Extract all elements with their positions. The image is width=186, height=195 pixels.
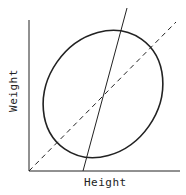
y-axis-label: Weight (7, 66, 20, 116)
data-ellipse (19, 7, 186, 181)
dashed-line (29, 22, 176, 171)
diagram-canvas (0, 0, 186, 195)
solid-regression-line (83, 8, 127, 171)
x-axis-label: Height (84, 176, 127, 189)
diagram: Weight Height (0, 0, 186, 195)
